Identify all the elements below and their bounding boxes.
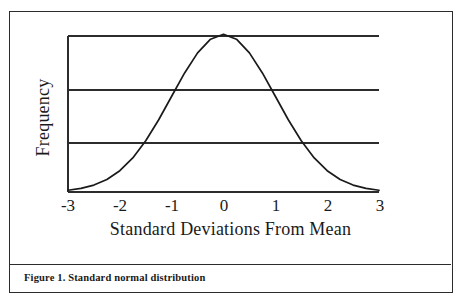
bell-curve-path [68,34,379,190]
x-tick-label-minus2: -2 [105,197,135,214]
x-tick-label-three: 3 [365,197,395,214]
x-axis-title: Standard Deviations From Mean [10,219,451,240]
caption-divider [10,264,451,265]
x-tick-label-minus3: -3 [53,197,83,214]
figure-page: -3 -2 -1 0 1 2 3 Standard Deviations Fro… [0,0,464,305]
figure-frame: -3 -2 -1 0 1 2 3 Standard Deviations Fro… [9,11,453,293]
figure-caption: Figure 1. Standard normal distribution [24,272,205,283]
x-tick-label-minus1: -1 [157,197,187,214]
x-tick-label-zero: 0 [209,197,239,214]
chart-plot-area: -3 -2 -1 0 1 2 3 Standard Deviations Fro… [10,12,451,264]
y-axis-title: Frequency [33,38,54,198]
x-tick-label-two: 2 [313,197,343,214]
x-tick-label-one: 1 [261,197,291,214]
